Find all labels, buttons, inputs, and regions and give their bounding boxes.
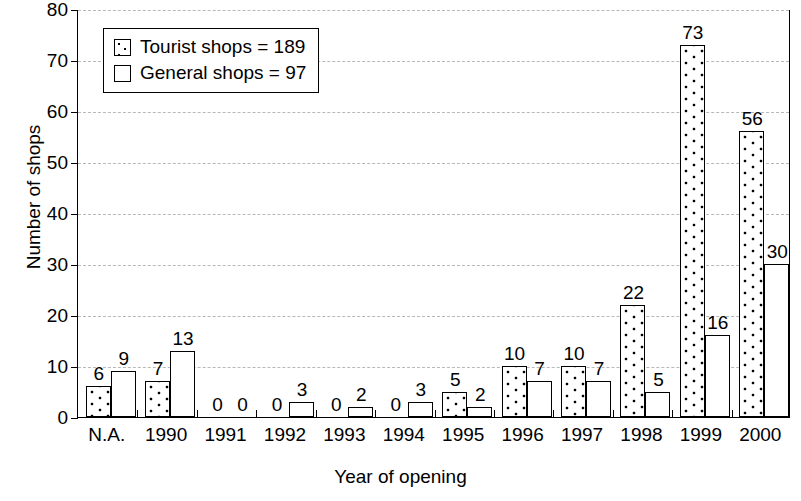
bar-general bbox=[645, 392, 670, 418]
bar-group: 107 bbox=[502, 10, 552, 417]
x-axis-tick-mark bbox=[494, 410, 495, 417]
y-axis-tick-label: 80 bbox=[8, 0, 68, 21]
y-axis-tick-label: 70 bbox=[8, 50, 68, 72]
y-axis-tick-label: 0 bbox=[8, 407, 68, 429]
bar-general bbox=[170, 351, 195, 417]
x-axis-tick-mark bbox=[613, 410, 614, 417]
bar-general bbox=[705, 335, 730, 417]
legend-swatch-tourist-icon bbox=[114, 39, 131, 56]
bar-value-label: 5 bbox=[633, 370, 683, 389]
x-axis-tick-mark bbox=[137, 410, 138, 417]
bar-value-label: 73 bbox=[668, 23, 718, 42]
y-axis-tick-label: 10 bbox=[8, 356, 68, 378]
legend: Tourist shops = 189 General shops = 97 bbox=[103, 28, 319, 93]
bar-tourist bbox=[680, 45, 705, 417]
bar-value-label: 22 bbox=[608, 283, 658, 302]
bar-tourist bbox=[739, 131, 764, 417]
y-axis-tick-label: 20 bbox=[8, 305, 68, 327]
bar-group: 7316 bbox=[680, 10, 730, 417]
legend-label-general: General shops = 97 bbox=[140, 62, 306, 84]
bar-general bbox=[348, 407, 373, 417]
x-axis-tick-label: 2000 bbox=[723, 424, 797, 446]
x-axis-tick-mark bbox=[553, 410, 554, 417]
y-axis-tick-label: 60 bbox=[8, 101, 68, 123]
bar-value-label: 7 bbox=[574, 359, 624, 378]
bar-general bbox=[467, 407, 492, 417]
bar-chart: Number of shops Year of opening 01020304… bbox=[0, 0, 801, 501]
x-axis-tick-mark bbox=[732, 410, 733, 417]
y-axis-tick-label: 40 bbox=[8, 203, 68, 225]
bar-group: 107 bbox=[561, 10, 611, 417]
bar-general bbox=[408, 402, 433, 417]
bar-general bbox=[764, 264, 789, 417]
x-axis-tick-mark bbox=[435, 410, 436, 417]
bar-group: 02 bbox=[323, 10, 373, 417]
legend-swatch-general-icon bbox=[114, 65, 131, 82]
bar-general bbox=[111, 371, 136, 417]
bar-value-label: 30 bbox=[752, 242, 801, 261]
x-axis-tick-mark bbox=[672, 410, 673, 417]
y-axis-tick-label: 30 bbox=[8, 254, 68, 276]
legend-item-tourist: Tourist shops = 189 bbox=[114, 34, 306, 60]
bar-tourist bbox=[145, 381, 170, 417]
bar-tourist bbox=[86, 386, 111, 417]
x-axis-title: Year of opening bbox=[0, 466, 801, 488]
legend-label-tourist: Tourist shops = 189 bbox=[140, 36, 305, 58]
y-axis-tick-mark bbox=[71, 418, 78, 419]
bar-general bbox=[586, 381, 611, 417]
bar-value-label: 16 bbox=[693, 313, 743, 332]
bar-group: 5630 bbox=[739, 10, 789, 417]
bar-group: 03 bbox=[383, 10, 433, 417]
bar-general bbox=[289, 402, 314, 417]
bar-general bbox=[527, 381, 552, 417]
bar-tourist bbox=[620, 305, 645, 417]
bar-group: 52 bbox=[442, 10, 492, 417]
legend-item-general: General shops = 97 bbox=[114, 60, 306, 86]
bar-value-label: 13 bbox=[158, 329, 208, 348]
bar-value-label: 56 bbox=[727, 109, 777, 128]
bar-group: 225 bbox=[620, 10, 670, 417]
bar-value-label: 2 bbox=[455, 385, 505, 404]
y-axis-tick-label: 50 bbox=[8, 152, 68, 174]
